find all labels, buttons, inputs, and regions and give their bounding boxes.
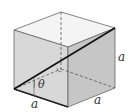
angle-label: θ bbox=[38, 78, 45, 91]
edge-label-bottom-right: a bbox=[94, 93, 101, 107]
cube-diagram: θ a a a bbox=[0, 0, 130, 112]
edge-label-vertical-right: a bbox=[118, 50, 125, 64]
edge-label-bottom-front: a bbox=[31, 97, 38, 111]
